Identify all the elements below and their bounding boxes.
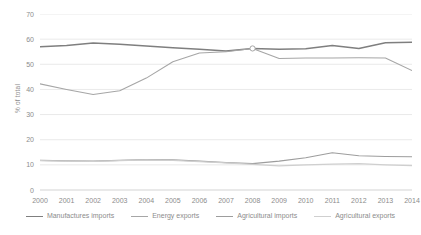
x-tick-2011: 2011 bbox=[317, 197, 347, 205]
x-tick-2002: 2002 bbox=[78, 197, 108, 205]
y-tick-70: 70 bbox=[14, 11, 34, 18]
x-tick-2009: 2009 bbox=[264, 197, 294, 205]
x-tick-2004: 2004 bbox=[131, 197, 161, 205]
y-tick-30: 30 bbox=[14, 111, 34, 118]
x-tick-2007: 2007 bbox=[211, 197, 241, 205]
x-tick-2005: 2005 bbox=[158, 197, 188, 205]
series-line-manufactures-imports bbox=[40, 42, 412, 51]
legend-item-agricultural-exports[interactable]: Agricultural exports bbox=[314, 212, 395, 220]
x-tick-2008: 2008 bbox=[238, 197, 268, 205]
y-axis-title: % of total bbox=[14, 69, 21, 129]
line-chart: % of total 010203040506070 2000200120022… bbox=[0, 0, 421, 235]
y-tick-20: 20 bbox=[14, 136, 34, 143]
legend-item-agricultural-imports[interactable]: Agricultural imports bbox=[216, 212, 297, 220]
legend-item-energy-exports[interactable]: Energy exports bbox=[131, 212, 199, 220]
legend-label-agricultural-imports: Agricultural imports bbox=[237, 212, 297, 220]
x-tick-2012: 2012 bbox=[344, 197, 374, 205]
plot-area bbox=[40, 14, 412, 190]
data-point-marker bbox=[250, 46, 255, 51]
legend-label-agricultural-exports: Agricultural exports bbox=[335, 212, 395, 220]
legend-item-manufactures-imports[interactable]: Manufactures imports bbox=[26, 212, 114, 220]
legend-label-manufactures-imports: Manufactures imports bbox=[47, 212, 114, 220]
series-line-energy-exports bbox=[40, 48, 412, 94]
legend-swatch-manufactures-imports bbox=[26, 216, 43, 217]
x-tick-2001: 2001 bbox=[52, 197, 82, 205]
x-tick-2006: 2006 bbox=[184, 197, 214, 205]
y-tick-60: 60 bbox=[14, 36, 34, 43]
series-line-agricultural-imports bbox=[40, 153, 412, 164]
y-tick-10: 10 bbox=[14, 161, 34, 168]
x-tick-2000: 2000 bbox=[25, 197, 55, 205]
x-tick-2013: 2013 bbox=[370, 197, 400, 205]
y-tick-0: 0 bbox=[14, 187, 34, 194]
plot-svg bbox=[40, 14, 412, 192]
legend-label-energy-exports: Energy exports bbox=[152, 212, 199, 220]
legend-swatch-agricultural-imports bbox=[216, 216, 233, 217]
legend-swatch-energy-exports bbox=[131, 216, 148, 217]
x-tick-2010: 2010 bbox=[291, 197, 321, 205]
chart-legend: Manufactures importsEnergy exportsAgricu… bbox=[0, 212, 421, 220]
y-tick-50: 50 bbox=[14, 61, 34, 68]
legend-swatch-agricultural-exports bbox=[314, 216, 331, 217]
x-tick-2003: 2003 bbox=[105, 197, 135, 205]
y-tick-40: 40 bbox=[14, 86, 34, 93]
x-tick-2014: 2014 bbox=[397, 197, 421, 205]
